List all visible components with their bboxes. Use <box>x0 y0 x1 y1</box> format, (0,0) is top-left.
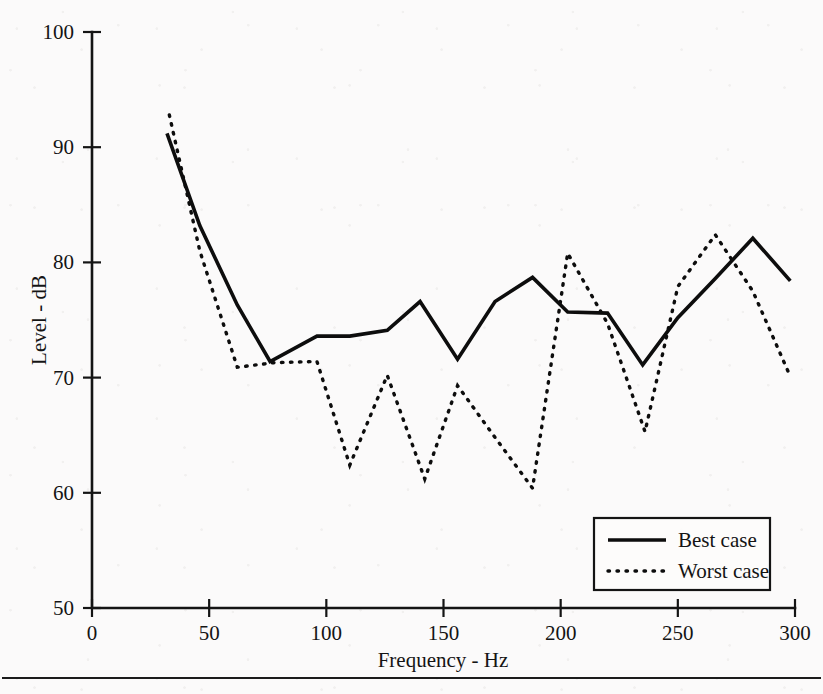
series-line-best-case <box>167 133 790 365</box>
series-line-worst-case <box>169 115 790 488</box>
y-tick-label: 80 <box>53 250 74 274</box>
figure-container: 5060708090100 050100150200250300 Level -… <box>0 0 823 694</box>
x-tick-label: 300 <box>779 621 811 645</box>
y-tick-label: 70 <box>53 366 74 390</box>
y-tick-label: 90 <box>53 135 74 159</box>
footer-rule <box>2 677 821 679</box>
x-tick-label: 0 <box>87 621 98 645</box>
y-tick-label: 60 <box>53 481 74 505</box>
x-axis-ticks: 050100150200250300 <box>87 599 811 645</box>
legend-label-worst-case: Worst case <box>678 559 769 583</box>
y-tick-label: 100 <box>43 20 75 44</box>
y-tick-label: 50 <box>53 596 74 620</box>
x-axis-title: Frequency - Hz <box>378 648 509 672</box>
chart-legend: Best case Worst case <box>594 518 770 590</box>
x-tick-label: 250 <box>662 621 694 645</box>
legend-label-best-case: Best case <box>678 528 757 552</box>
x-tick-label: 100 <box>311 621 343 645</box>
x-tick-label: 200 <box>545 621 577 645</box>
x-tick-label: 150 <box>428 621 460 645</box>
x-tick-label: 50 <box>199 621 220 645</box>
y-axis-title: Level - dB <box>27 275 51 365</box>
line-chart: 5060708090100 050100150200250300 Level -… <box>0 0 823 694</box>
